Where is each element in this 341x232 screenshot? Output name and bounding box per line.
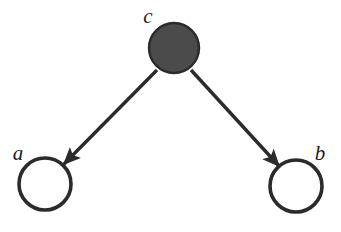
- graph-canvas: a b c: [0, 0, 341, 232]
- edge-c-to-a[interactable]: [64, 70, 157, 164]
- graph-diagram: a b c: [0, 0, 341, 232]
- node-a-circle[interactable]: [19, 158, 71, 210]
- node-b[interactable]: b: [270, 141, 325, 212]
- node-c-label: c: [143, 4, 153, 28]
- node-b-circle[interactable]: [270, 160, 322, 212]
- node-a[interactable]: a: [13, 141, 71, 210]
- edge-line-c-to-b: [191, 70, 279, 166]
- node-c-circle[interactable]: [149, 23, 199, 73]
- edge-c-to-b[interactable]: [191, 70, 279, 166]
- node-c[interactable]: c: [143, 4, 199, 73]
- node-b-label: b: [315, 141, 326, 165]
- edge-line-c-to-a: [64, 70, 157, 164]
- node-a-label: a: [13, 141, 24, 165]
